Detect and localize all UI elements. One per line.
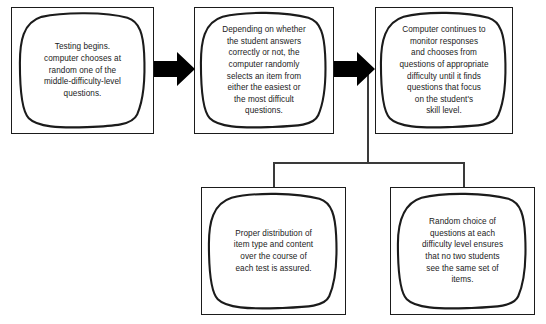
connector-drop-right xyxy=(463,162,465,189)
flowchart-diagram: Testing begins. computer chooses at rand… xyxy=(0,0,546,324)
testing-begins-text: Testing begins. computer chooses at rand… xyxy=(12,8,153,133)
testing-begins-node[interactable]: Testing begins. computer chooses at rand… xyxy=(11,7,154,134)
arrow-step1-to-step2-icon xyxy=(154,52,195,86)
item-selection-node[interactable]: Depending on whether the student answers… xyxy=(194,7,334,134)
proper-distribution-text: Proper distribution of item type and con… xyxy=(202,188,345,314)
monitor-responses-node[interactable]: Computer continues to monitor responses … xyxy=(375,7,513,134)
connector-drop-left xyxy=(273,162,275,189)
random-choice-text: Random choice of questions at each diffi… xyxy=(391,188,534,314)
random-choice-node[interactable]: Random choice of questions at each diffi… xyxy=(390,187,535,315)
connector-horizontal-bus xyxy=(273,162,464,164)
proper-distribution-node[interactable]: Proper distribution of item type and con… xyxy=(201,187,346,315)
monitor-responses-text: Computer continues to monitor responses … xyxy=(376,8,512,133)
arrow-step2-to-step3-icon xyxy=(334,52,375,86)
item-selection-text: Depending on whether the student answers… xyxy=(195,8,333,133)
